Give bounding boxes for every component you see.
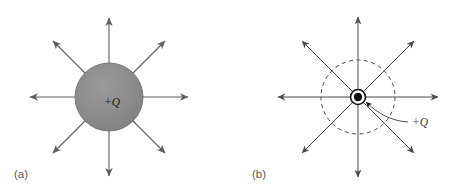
panel-b-caption: (b): [252, 168, 266, 180]
point-charge-dot: [354, 93, 362, 101]
panel-a-caption: (a): [14, 168, 28, 180]
figure-canvas: +Q (a) +Q (b): [0, 0, 456, 194]
physics-figure-electric-field-lines: +Q (a) +Q (b): [0, 0, 456, 194]
panel-b-charge-label: +Q: [412, 116, 429, 128]
panel-a-charge-label: +Q: [104, 96, 121, 108]
